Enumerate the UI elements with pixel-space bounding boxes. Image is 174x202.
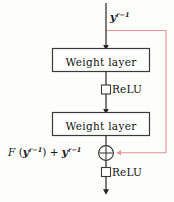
relu-2-node xyxy=(102,168,111,177)
sum-expression-label: F (yr−1) + yr−1 xyxy=(8,146,81,158)
sum-label-open: ( xyxy=(15,146,22,158)
relu-1-label: ReLU xyxy=(112,83,142,95)
residual-block-diagram: yr−1 Weight layer Weight layer ReLU ReLU… xyxy=(0,0,174,202)
input-label-exponent: r−1 xyxy=(116,11,129,19)
add-node-glyph xyxy=(99,146,114,161)
relu-2-label: ReLU xyxy=(112,166,142,178)
diagram-canvas xyxy=(0,0,174,202)
sum-label-arg-exponent: r−1 xyxy=(29,146,42,154)
weight-layer-1-label: Weight layer xyxy=(52,56,150,68)
weight-layer-2-label: Weight layer xyxy=(52,120,150,132)
sum-label-term-exponent: r−1 xyxy=(68,146,81,154)
sum-label-plus: + xyxy=(46,146,61,158)
input-label: yr−1 xyxy=(110,11,130,23)
relu-1-node xyxy=(102,85,111,94)
